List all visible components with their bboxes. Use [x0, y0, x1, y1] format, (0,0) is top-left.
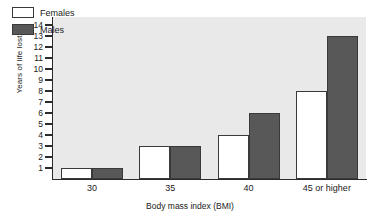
y-tick-2 [45, 156, 52, 157]
x-tick-label-35: 35 [125, 183, 215, 193]
legend-item-females: Females [12, 6, 75, 19]
y-tick-7 [45, 101, 52, 102]
y-tick-12 [45, 46, 52, 47]
y-tick-label-12: 12 [25, 43, 43, 51]
y-tick-11 [45, 57, 52, 58]
bar-females-40 [218, 135, 249, 179]
y-tick-label-2: 2 [25, 153, 43, 161]
legend-label-females: Females [40, 8, 75, 18]
legend-item-males: Males [12, 23, 75, 36]
bar-males-30 [92, 168, 123, 179]
legend-label-males: Males [40, 25, 64, 35]
legend-swatch-females-icon [12, 7, 34, 18]
x-tick-label-30: 30 [47, 183, 137, 193]
y-tick-4 [45, 134, 52, 135]
x-tick-label-40: 40 [204, 183, 294, 193]
y-tick-6 [45, 112, 52, 113]
y-tick-label-10: 10 [25, 65, 43, 73]
y-tick-3 [45, 145, 52, 146]
legend-swatch-males-icon [12, 24, 34, 35]
x-axis-title: Body mass index (BMI) [0, 201, 380, 211]
bar-females-35 [139, 146, 170, 179]
y-tick-1 [45, 167, 52, 168]
bar-females-30 [61, 168, 92, 179]
y-tick-5 [45, 123, 52, 124]
y-tick-label-4: 4 [25, 131, 43, 139]
y-tick-label-5: 5 [25, 120, 43, 128]
x-axis-line [52, 179, 367, 180]
bar-females-45-or-higher [296, 91, 327, 179]
legend: Females Males [12, 6, 75, 40]
y-tick-9 [45, 79, 52, 80]
bar-males-45-or-higher [327, 36, 358, 179]
y-axis-line [52, 17, 53, 180]
y-tick-label-9: 9 [25, 76, 43, 84]
x-tick-label-45-or-higher: 45 or higher [282, 183, 372, 193]
y-tick-label-11: 11 [25, 54, 43, 62]
y-tick-8 [45, 90, 52, 91]
bar-males-35 [170, 146, 201, 179]
y-tick-label-3: 3 [25, 142, 43, 150]
y-tick-label-8: 8 [25, 87, 43, 95]
bar-males-40 [249, 113, 280, 179]
y-tick-10 [45, 68, 52, 69]
y-tick-label-7: 7 [25, 98, 43, 106]
y-tick-label-1: 1 [25, 164, 43, 172]
y-tick-label-6: 6 [25, 109, 43, 117]
bar-chart: Years of life lost Body mass index (BMI)… [0, 0, 380, 224]
